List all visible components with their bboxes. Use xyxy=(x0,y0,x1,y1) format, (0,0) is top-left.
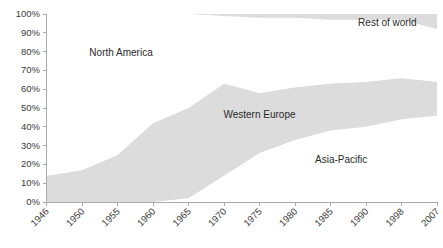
x-tick-label: 1965 xyxy=(170,206,193,229)
y-tick-label: 10% xyxy=(21,177,41,188)
x-tick-label: 1990 xyxy=(348,206,371,229)
x-tick-label: 1946 xyxy=(28,206,51,229)
x-tick-label: 1955 xyxy=(99,206,122,229)
series-label-western-europe: Western Europe xyxy=(223,109,296,120)
y-tick-label: 90% xyxy=(21,27,41,38)
series-label-rest-of-world: Rest of world xyxy=(358,17,416,28)
x-tick-label: 1998 xyxy=(383,206,406,229)
y-tick-label: 20% xyxy=(21,158,41,169)
series-label-north-america: North America xyxy=(89,47,153,58)
x-tick-label: 2007 xyxy=(419,206,442,229)
x-tick-label: 1960 xyxy=(135,206,158,229)
y-tick-label: 70% xyxy=(21,64,41,75)
x-tick-label: 1950 xyxy=(64,206,87,229)
series-label-asia-pacific: Asia-Pacific xyxy=(315,154,367,165)
x-tick-label: 1985 xyxy=(312,206,335,229)
y-tick-label: 40% xyxy=(21,121,41,132)
y-tick-label: 100% xyxy=(16,8,41,19)
x-tick-label: 1975 xyxy=(241,206,264,229)
x-tick-label: 1970 xyxy=(206,206,229,229)
y-tick-label: 80% xyxy=(21,46,41,57)
y-tick-label: 60% xyxy=(21,83,41,94)
x-tick-label: 1980 xyxy=(277,206,300,229)
y-tick-label: 0% xyxy=(26,196,40,207)
stacked-area-chart: 0%10%20%30%40%50%60%70%80%90%100%1946195… xyxy=(0,0,443,248)
chart-container: 0%10%20%30%40%50%60%70%80%90%100%1946195… xyxy=(0,0,443,248)
y-tick-label: 30% xyxy=(21,140,41,151)
y-tick-label: 50% xyxy=(21,102,41,113)
